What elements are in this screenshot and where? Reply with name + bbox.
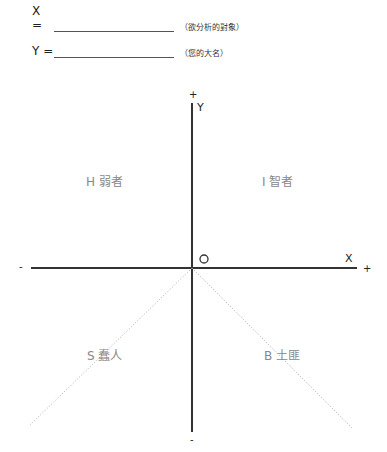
quadrant-bottom-right: B 土匪: [264, 346, 300, 363]
x-minus-sign: -: [19, 261, 23, 272]
axes-diagram: [0, 0, 387, 452]
quadrant-top-left: H 弱者: [86, 172, 123, 189]
origin-marker: [200, 255, 208, 263]
quadrant-bottom-left: S 蠢人: [87, 346, 122, 363]
y-plus-sign: +: [189, 89, 197, 100]
quadrant-top-right: I 智者: [262, 172, 293, 189]
y-minus-sign: -: [190, 434, 194, 445]
x-axis-label: X: [345, 252, 353, 265]
x-plus-sign: +: [363, 263, 371, 274]
y-axis-label: Y: [197, 101, 204, 114]
